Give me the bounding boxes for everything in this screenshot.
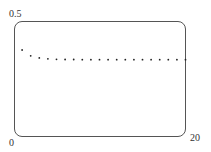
data-point [150, 59, 152, 61]
data-point [107, 59, 109, 61]
data-point [142, 59, 144, 61]
data-point [47, 58, 49, 60]
data-point [81, 59, 83, 61]
data-point [73, 59, 75, 61]
data-point [90, 59, 92, 61]
scatter-points [0, 0, 211, 152]
data-point [116, 59, 118, 61]
data-point [167, 59, 169, 61]
data-point [99, 59, 101, 61]
data-point [124, 59, 126, 61]
data-point [30, 55, 32, 57]
data-point [159, 59, 161, 61]
data-point [133, 59, 135, 61]
data-point [21, 49, 23, 51]
data-point [64, 59, 66, 61]
data-point [38, 57, 40, 59]
data-point [185, 59, 187, 61]
data-point [56, 58, 58, 60]
data-point [176, 59, 178, 61]
